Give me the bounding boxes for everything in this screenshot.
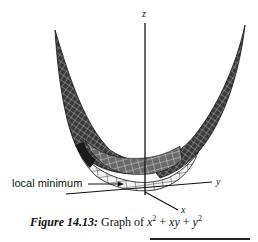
formula-term-xy: xy — [169, 215, 180, 229]
z-axis-label: z — [142, 8, 146, 19]
formula-plus: + — [183, 215, 190, 229]
local-minimum-label: local minimum — [12, 177, 82, 189]
caption-text: Graph of — [101, 215, 144, 229]
figure-caption: Figure 14.13: Graph of x2 + xy + y2 — [30, 214, 230, 230]
figure-number: Figure 14.13: — [30, 215, 98, 229]
formula: x2 + xy + y2 — [147, 215, 202, 229]
y-axis-label: y — [216, 176, 220, 187]
page-rule-divider — [150, 238, 250, 240]
surface-plot — [0, 0, 258, 242]
formula-exp: 2 — [152, 214, 156, 223]
surface-left-wall — [55, 30, 155, 174]
x-axis — [145, 192, 178, 210]
formula-plus: + — [159, 215, 166, 229]
formula-exp: 2 — [198, 214, 202, 223]
